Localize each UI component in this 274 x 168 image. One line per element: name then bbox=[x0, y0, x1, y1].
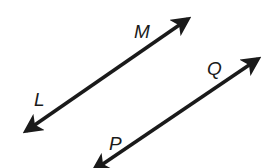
point-label-m: M bbox=[134, 21, 150, 42]
point-label-l: L bbox=[34, 89, 45, 110]
parallel-lines-diagram: L M P Q bbox=[0, 0, 274, 168]
line-pq: P Q bbox=[94, 58, 258, 168]
line-lm: L M bbox=[26, 19, 188, 131]
line-lm-segment bbox=[26, 19, 188, 131]
point-label-q: Q bbox=[207, 58, 222, 79]
point-label-p: P bbox=[109, 133, 122, 154]
